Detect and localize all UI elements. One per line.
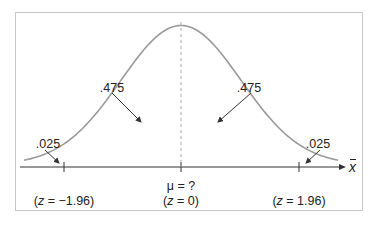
arrow-right-center xyxy=(218,93,251,122)
arrow-left-tail xyxy=(45,150,59,163)
z-value: = 1.96 xyxy=(283,194,322,208)
tick-label-center-mu: μ = ? xyxy=(167,180,195,193)
tick-label-center-z: (z = 0) xyxy=(163,195,199,208)
area-label-right-tail: .025 xyxy=(306,138,330,151)
x-axis-arrowhead xyxy=(339,164,346,170)
area-label-left-center: .475 xyxy=(100,82,124,95)
z-value: = 0 xyxy=(174,194,195,208)
area-label-right-center: .475 xyxy=(237,82,261,95)
axis-label-x-bar: x xyxy=(349,160,356,174)
area-label-left-tail: .025 xyxy=(36,138,60,151)
tick-label-right-z: (z = 1.96) xyxy=(272,195,325,208)
arrow-left-center xyxy=(112,93,141,122)
normal-curve xyxy=(24,26,338,161)
tick-label-left-z: (z = −1.96) xyxy=(34,195,94,208)
z-value: = −1.96 xyxy=(44,194,90,208)
